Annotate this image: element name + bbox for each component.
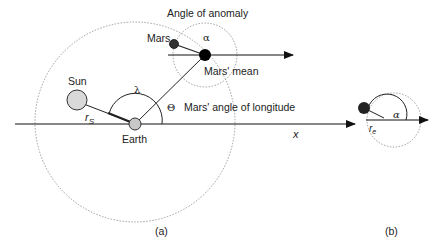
earth-label: Earth <box>122 133 147 145</box>
lambda-label: λ <box>134 84 141 95</box>
figure-a: x Angle of anomaly Mars α Mars' mean Sun… <box>15 7 355 237</box>
angle-of-anomaly-label: Angle of anomaly <box>167 7 249 19</box>
mars-mean-body <box>199 49 211 61</box>
figure-b: α re (b) <box>358 93 428 237</box>
sun-label: Sun <box>68 75 87 87</box>
earth-body <box>129 118 141 130</box>
mars-label: Mars <box>147 32 170 44</box>
caption-a: (a) <box>155 225 168 237</box>
mars-mean-label: Mars' mean <box>204 65 259 77</box>
alpha-arc-b <box>368 94 407 120</box>
mars-body <box>170 40 179 49</box>
diagram-svg: x Angle of anomaly Mars α Mars' mean Sun… <box>0 0 439 245</box>
sun-body <box>67 90 87 110</box>
caption-b: (b) <box>385 225 398 237</box>
re-label: re <box>369 123 376 135</box>
x-axis-label: x <box>292 128 299 140</box>
sun-body-b <box>358 102 370 114</box>
alpha-label-b: α <box>393 109 400 120</box>
alpha-label-a: α <box>203 32 210 43</box>
diagram-canvas: x Angle of anomaly Mars α Mars' mean Sun… <box>0 0 439 245</box>
theta-label: Θ <box>167 102 175 113</box>
earth-mars-mean-line <box>135 55 205 124</box>
mars-longitude-label: Mars' angle of longitude <box>184 101 295 113</box>
